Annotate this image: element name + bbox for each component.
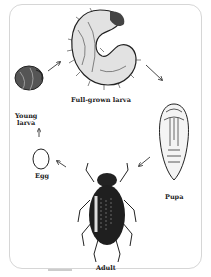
- label-full-grown-larva: Full-grown larva: [71, 97, 131, 104]
- label-young-larva-line2: larva: [17, 120, 35, 127]
- young-larva-illustration: [15, 66, 43, 90]
- arrow-adult-to-egg: [57, 161, 66, 167]
- label-pupa: Pupa: [165, 194, 183, 201]
- egg-illustration: [33, 149, 49, 169]
- arrow-full-grown-to-pupa: [146, 65, 162, 80]
- pupa-illustration: [160, 104, 189, 180]
- label-egg: Egg: [35, 173, 49, 180]
- life-cycle-illustration: [0, 0, 211, 277]
- arrow-pupa-to-adult: [139, 157, 150, 166]
- arrow-young-to-full-grown: [48, 62, 60, 71]
- adult-beetle-illustration: [78, 163, 136, 262]
- full-grown-larva-illustration: [67, 8, 141, 90]
- label-adult: Adult: [96, 265, 116, 272]
